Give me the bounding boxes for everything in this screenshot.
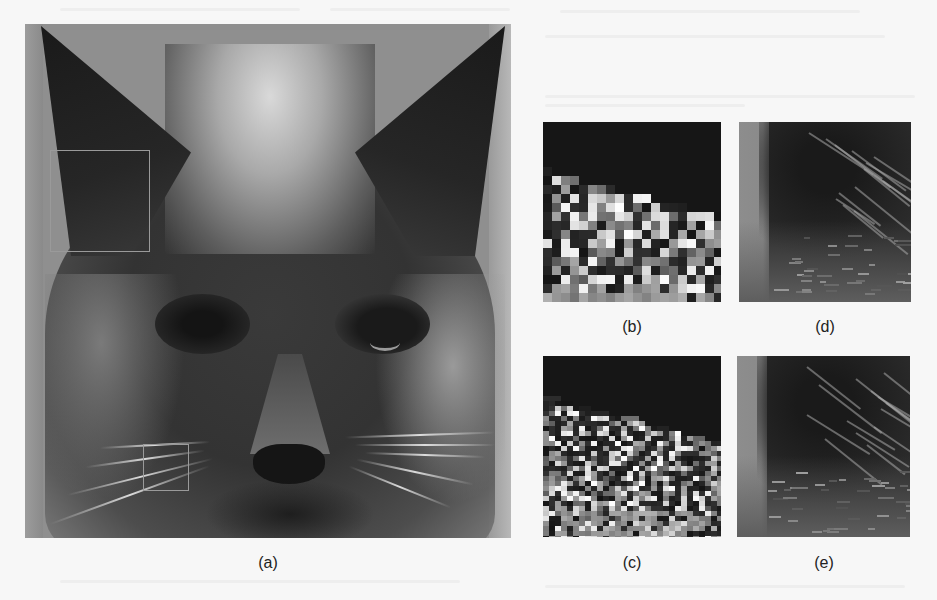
fur-speckle <box>826 290 838 292</box>
pixel-block <box>687 275 696 284</box>
caption-d: (d) <box>815 318 835 336</box>
pixel-block <box>570 257 579 266</box>
pixel-block <box>633 230 642 239</box>
pixel-block <box>606 257 615 266</box>
fur-speckle <box>815 484 825 486</box>
cat-nose <box>253 444 325 484</box>
pixel-block <box>660 212 669 221</box>
fur-speckle <box>792 508 803 510</box>
fur-speckle <box>877 285 892 287</box>
pixel-block <box>651 293 660 302</box>
fur-speckle <box>795 261 803 263</box>
pixel-block <box>561 230 570 239</box>
pixel-block <box>678 284 687 293</box>
pixel-block <box>588 275 597 284</box>
pixel-block <box>669 248 678 257</box>
pixel-block <box>579 221 588 230</box>
pixel-block <box>615 194 624 203</box>
pixel-block <box>696 239 705 248</box>
pixel-block <box>615 266 624 275</box>
pixel-block <box>624 230 633 239</box>
fur-speckle <box>872 485 886 487</box>
pixel-block <box>651 257 660 266</box>
pixel-block <box>615 275 624 284</box>
pixel-block <box>597 239 606 248</box>
caption-a: (a) <box>258 554 278 572</box>
fur-speckle <box>774 289 789 291</box>
pixel-block <box>579 203 588 212</box>
pixel-block <box>696 257 705 266</box>
caption-c: (c) <box>623 554 642 572</box>
pixel-block <box>678 230 687 239</box>
pixel-block <box>597 266 606 275</box>
pixel-block <box>588 248 597 257</box>
pixel-block <box>642 203 651 212</box>
fur-speckle <box>828 245 837 247</box>
fur-speckle <box>804 237 810 239</box>
pixel-block <box>570 176 579 185</box>
pixel-block <box>561 185 570 194</box>
pixel-block <box>633 203 642 212</box>
pixel-block <box>669 221 678 230</box>
pixel-block <box>588 230 597 239</box>
pixel-block <box>705 230 714 239</box>
pixel-block <box>660 221 669 230</box>
pixel-block <box>543 284 552 293</box>
roi-box-whisker <box>143 444 189 491</box>
pixel-block <box>606 230 615 239</box>
inset-panel-d <box>739 122 911 302</box>
fur-speckle <box>864 249 872 251</box>
pixel-block <box>570 239 579 248</box>
pixel-block <box>552 176 561 185</box>
pixel-block <box>642 266 651 275</box>
pixel-block <box>561 212 570 221</box>
pixel-block <box>633 257 642 266</box>
pixel-block <box>633 212 642 221</box>
pixel-block <box>606 185 615 194</box>
fur-speckle <box>898 289 911 291</box>
pixel-block <box>579 194 588 203</box>
fur-speckle <box>801 280 812 282</box>
pixel-block <box>660 293 669 302</box>
pixel-block <box>678 293 687 302</box>
pixel-block <box>570 203 579 212</box>
pixel-block <box>669 203 678 212</box>
fur-speckle <box>848 235 862 237</box>
pixel-block <box>696 221 705 230</box>
pixel-block <box>561 239 570 248</box>
cat-eye-glint <box>370 334 400 351</box>
fur-speckle <box>804 270 814 272</box>
pixel-block <box>642 257 651 266</box>
pixel-block <box>633 239 642 248</box>
pixel-block <box>561 275 570 284</box>
fur-speckle <box>881 482 889 484</box>
inset-panel-e <box>737 356 910 537</box>
fur-speckle <box>884 237 894 239</box>
pixel-block <box>606 194 615 203</box>
fur-speckle <box>869 264 875 266</box>
pixel-block <box>561 203 570 212</box>
pixel-block <box>633 284 642 293</box>
pixel-block <box>579 257 588 266</box>
pixel-block <box>642 239 651 248</box>
pixel-block <box>606 284 615 293</box>
fur-speckle <box>877 515 889 517</box>
pixel-block <box>705 284 714 293</box>
pixel-block <box>570 221 579 230</box>
pixel-block <box>561 284 570 293</box>
pixel-block <box>579 185 588 194</box>
pixel-block <box>570 248 579 257</box>
pixel-block <box>633 275 642 284</box>
pixel-block <box>642 230 651 239</box>
fur-speckle <box>768 490 776 492</box>
cat-forehead <box>165 44 375 254</box>
pixel-block <box>588 293 597 302</box>
pixel-block <box>669 275 678 284</box>
pixel-block <box>660 284 669 293</box>
pixel-block <box>552 194 561 203</box>
pixel-block <box>624 221 633 230</box>
pixel-block <box>624 203 633 212</box>
pixel-block <box>624 293 633 302</box>
pixel-block <box>642 284 651 293</box>
pixel-block <box>597 257 606 266</box>
